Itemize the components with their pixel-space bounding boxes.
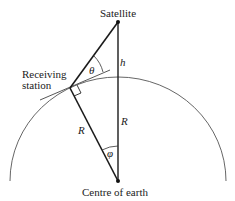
height-label: h <box>120 56 126 68</box>
satellite-geometry-diagram: Satellite h Receiving station θ R R φ Ce… <box>0 0 235 201</box>
radius-right-label: R <box>121 115 128 127</box>
centre-dot <box>116 179 120 183</box>
theta-label: θ <box>89 64 94 76</box>
phi-label: φ <box>107 147 113 159</box>
satellite-label: Satellite <box>100 7 136 19</box>
line-of-sight <box>70 22 118 88</box>
right-angle-marker <box>74 85 81 96</box>
receiving-station-label-line2: station <box>22 79 51 91</box>
theta-arc <box>94 56 103 72</box>
diagram-graphic <box>0 0 235 201</box>
centre-of-earth-label: Centre of earth <box>82 186 148 198</box>
satellite-dot <box>116 20 120 24</box>
radius-left-label: R <box>78 124 85 136</box>
